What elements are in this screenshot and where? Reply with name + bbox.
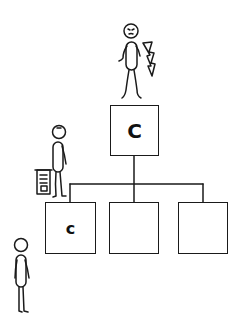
standing-person-icon bbox=[0, 0, 240, 325]
